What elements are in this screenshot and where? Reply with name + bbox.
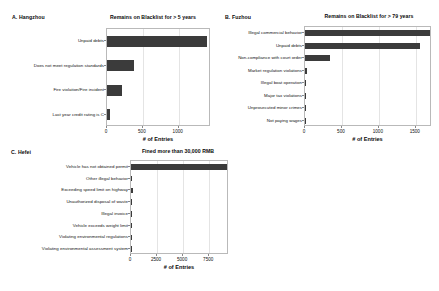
bar [131,188,133,193]
bar [305,43,420,49]
gridline-b-500 [342,27,343,125]
panel-a-hangzhou: A. Hangzhou Remains on Blacklist for > 5… [8,12,213,142]
gridline-b-1000 [379,27,380,125]
bar [305,118,306,124]
y-category-label: Market regulation violations [248,67,302,72]
y-category-label: Not paying wages [267,117,302,122]
bar [131,164,228,169]
y-category-label: Unpaid debts [276,42,302,47]
x-tick-mark [341,126,342,128]
bar [131,199,132,204]
x-tick-label: 0 [105,129,108,134]
x-tick-mark [142,126,143,128]
panel-b-tag: B. Fuzhou [225,14,251,20]
y-category-label: Unauthorized disposal of waste [66,199,128,204]
bar [131,235,132,240]
x-tick-label: 2500 [151,257,161,262]
x-tick-mark [106,126,107,128]
x-tick-mark [304,126,305,128]
bar [107,85,122,96]
bar [131,246,132,251]
panel-c-tag: C. Hefei [11,149,31,155]
y-category-label: Illegal commercial behavior [248,30,302,35]
y-category-label: Last year credit rating is C [52,111,104,116]
figure-canvas: A. Hangzhou Remains on Blacklist for > 5… [0,0,439,291]
x-tick-mark [415,126,416,128]
bar [305,68,307,74]
panel-c-ylabels: Vehicle has not obtained permitOther ill… [8,160,128,254]
bar [131,211,132,216]
panel-c-hefei: C. Hefei Fined more than 30,000 RMB Vehi… [8,147,234,285]
y-category-label: Fire violation/Fire incident [53,87,104,92]
y-category-label: Non-compliance with court order [238,55,302,60]
x-tick-label: 1000 [373,129,383,134]
x-tick-mark [178,126,179,128]
bar [107,60,134,71]
x-tick-label: 5000 [177,257,187,262]
gridline-c-5000 [183,161,184,253]
panel-a-plot-area [106,28,210,126]
panel-b-plot-area [304,26,431,126]
y-category-label: Violating environmental regulations [59,234,128,239]
x-tick-mark [156,254,157,256]
y-category-label: Violating environmental assessment syste… [42,246,128,251]
x-tick-label: 500 [337,129,345,134]
panel-b-fuzhou: B. Fuzhou Remains on Blacklist for > 79 … [222,12,435,142]
x-tick-label: 500 [138,129,146,134]
panel-b-xaxis-title: # of Entries [304,136,431,142]
panel-a-title: Remains on Blacklist for > 5 years [98,14,208,20]
bar [107,109,110,120]
panel-a-tag: A. Hangzhou [12,14,45,20]
x-tick-mark [378,126,379,128]
gridline-b-1500 [416,27,417,125]
x-tick-label: 0 [129,257,132,262]
bar [305,93,306,99]
panel-c-xaxis-title: # of Entries [130,264,228,270]
panel-b-ylabels: Illegal commercial behaviorUnpaid debtsN… [222,26,302,126]
y-category-label: Other illegal behavior [86,175,128,180]
y-category-label: Does not meet regulation standards [34,62,104,67]
y-category-label: Major tax violations [264,92,302,97]
y-category-label: Illegal invoice [101,210,128,215]
y-category-label: Vehicle has not obtained permit [66,163,128,168]
bar [305,80,306,86]
bar [305,55,330,61]
panel-a-ylabels: Unpaid debtsDoes not meet regulation sta… [8,28,104,126]
panel-b-title: Remains on Blacklist for > 79 years [305,13,433,19]
x-tick-label: 7500 [203,257,213,262]
x-tick-label: 0 [303,129,306,134]
y-category-label: Unpaid debts [78,38,104,43]
gridline-c-7500 [209,161,210,253]
gridline-c-2500 [157,161,158,253]
x-tick-label: 1000 [173,129,183,134]
bar [107,36,207,47]
bar [305,105,306,111]
panel-a-xaxis-title: # of Entries [106,136,210,142]
x-tick-mark [182,254,183,256]
y-category-label: Exceeding speed limit on highway [61,187,128,192]
x-tick-mark [208,254,209,256]
bar [131,176,132,181]
bar [305,30,431,36]
y-category-label: Unprosecuted minor crimes [248,105,302,110]
bar [131,223,132,228]
panel-c-plot-area [130,160,228,254]
x-tick-mark [130,254,131,256]
y-category-label: Illegal boat operation [261,80,302,85]
y-category-label: Vehicle exceeds weight limit [73,222,128,227]
panel-c-title: Fined more than 30,000 RMB [126,148,230,154]
x-tick-label: 1500 [410,129,420,134]
